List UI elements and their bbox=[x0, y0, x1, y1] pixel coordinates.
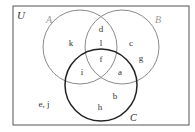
venn-diagram: U ABC kdlcgfiabhe, j bbox=[0, 0, 195, 132]
region-label: f bbox=[100, 54, 103, 64]
region-label: k bbox=[69, 38, 74, 48]
region-label: e, j bbox=[39, 99, 50, 109]
universe-label: U bbox=[17, 9, 26, 21]
set-label-b: B bbox=[155, 14, 161, 25]
region-label: h bbox=[98, 102, 103, 112]
region-label: l bbox=[100, 38, 103, 48]
region-label: d bbox=[99, 24, 104, 34]
region-label: b bbox=[113, 91, 118, 101]
region-label: c bbox=[129, 38, 133, 48]
region-label: g bbox=[139, 53, 144, 63]
set-label-c: C bbox=[130, 112, 137, 123]
region-label: a bbox=[118, 67, 122, 77]
region-label: i bbox=[81, 67, 84, 77]
set-label-a: A bbox=[45, 14, 53, 25]
set-circle-b bbox=[85, 10, 159, 84]
